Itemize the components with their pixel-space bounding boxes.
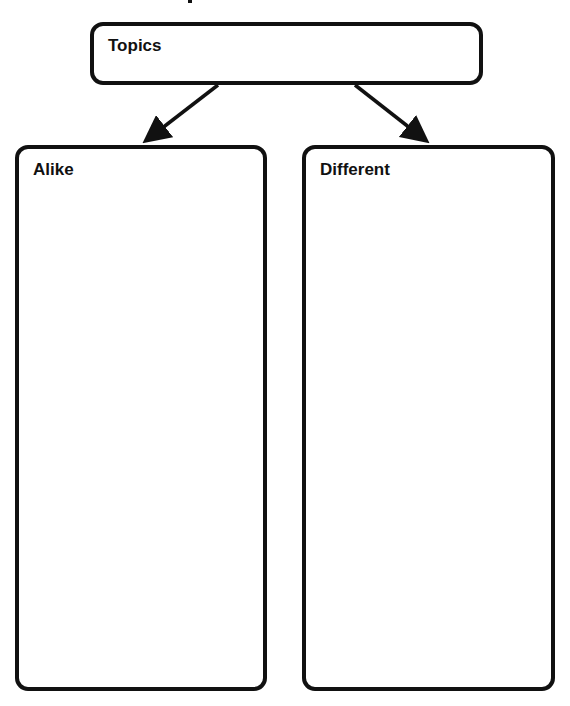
different-box[interactable]: Different <box>302 145 555 691</box>
different-label: Different <box>320 160 390 180</box>
alike-box[interactable]: Alike <box>15 145 267 691</box>
arrow-to-different-icon <box>355 85 424 139</box>
alike-label: Alike <box>33 160 74 180</box>
topics-label: Topics <box>108 36 162 56</box>
topics-box[interactable]: Topics <box>90 22 483 85</box>
cropped-title-fragment <box>188 0 192 3</box>
arrow-to-alike-icon <box>148 85 218 139</box>
